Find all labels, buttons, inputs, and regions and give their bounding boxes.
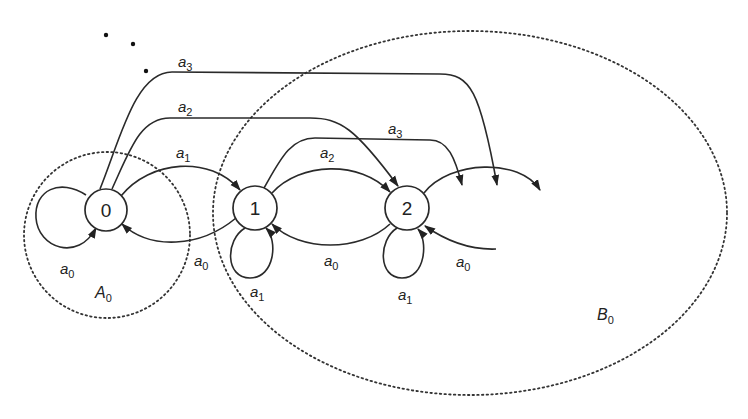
region-label-b0: B0 <box>597 306 614 326</box>
edge-label-1-to-0: a0 <box>194 252 208 272</box>
edge-label-2-to-1: a0 <box>324 252 338 272</box>
edge-1-to-2-a2 <box>272 169 390 193</box>
region-b0-boundary <box>213 31 727 395</box>
edge-2-to-next-a2 <box>424 167 540 193</box>
edge-1-to-1-a1 <box>231 228 273 278</box>
edge-2-to-1-a0 <box>272 224 390 245</box>
state-node-0: 0 <box>85 189 127 231</box>
edge-label-1-to-1: a1 <box>250 283 264 303</box>
edge-label-1-to-3: a3 <box>388 120 402 140</box>
ellipsis-dot <box>144 69 148 73</box>
edge-label-0-to-2: a2 <box>178 98 192 118</box>
ellipsis-dot <box>131 42 135 46</box>
edge-label-0-to-1: a1 <box>176 144 190 164</box>
edge-label-0-to-3: a3 <box>178 53 192 73</box>
edge-0-to-1-a1 <box>121 166 240 196</box>
state-node-2: 2 <box>385 186 429 230</box>
state-node-1: 1 <box>233 186 277 230</box>
edge-label-0-to-0: a0 <box>60 260 74 280</box>
edge-label-next-to-2: a0 <box>456 253 470 273</box>
region-label-a0: A0 <box>94 284 112 304</box>
state-diagram: 0 1 2 a0 a1 a0 a2 a3 a1 a2 a0 a3 a1 a0 A… <box>0 0 748 419</box>
edge-1-to-3-a3 <box>264 138 462 188</box>
ellipsis-dot <box>104 33 108 37</box>
edge-label-1-to-2: a2 <box>320 144 334 164</box>
state-node-label: 1 <box>250 198 261 219</box>
edge-label-2-to-2: a1 <box>398 286 412 306</box>
state-node-label: 2 <box>402 198 413 219</box>
edge-0-to-2-a2 <box>112 118 398 189</box>
state-node-label: 0 <box>101 200 112 221</box>
edge-next-to-2-a0 <box>425 226 496 249</box>
edge-1-to-0-a0 <box>122 218 236 242</box>
edge-2-to-2-a1 <box>383 228 423 278</box>
